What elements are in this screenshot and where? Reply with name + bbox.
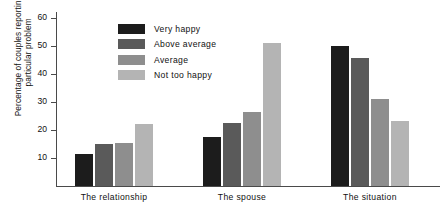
y-tick-label: 30 [21, 96, 47, 106]
y-tick-label: 60 [21, 12, 47, 22]
plot-area: 102030405060 Very happyAbove averageAver… [56, 12, 440, 186]
bar-the-spouse-very-happy [203, 137, 221, 186]
y-tick-label: 20 [21, 124, 47, 134]
bar-the-spouse-not-too-happy [263, 43, 281, 186]
x-axis-label-1: The spouse [218, 192, 266, 202]
x-axis-label-2: The situation [343, 192, 397, 202]
bars-layer [56, 12, 440, 186]
x-axis-line [56, 186, 440, 187]
y-tick-label: 40 [21, 68, 47, 78]
bar-the-relationship-average [115, 143, 133, 187]
bar-the-situation-average [371, 99, 389, 186]
bar-the-situation-not-too-happy [391, 121, 409, 186]
bar-the-situation-very-happy [331, 46, 349, 186]
x-axis-label-0: The relationship [81, 192, 148, 202]
y-tick-label: 10 [21, 152, 47, 162]
bar-the-relationship-above-average [95, 144, 113, 186]
y-tick-label: 50 [21, 40, 47, 50]
bar-the-situation-above-average [351, 58, 369, 186]
bar-the-spouse-above-average [223, 123, 241, 186]
bar-chart: Percentage of couples reporting a partic… [0, 0, 448, 221]
bar-the-relationship-very-happy [75, 154, 93, 186]
bar-the-relationship-not-too-happy [135, 124, 153, 186]
bar-the-spouse-average [243, 112, 261, 186]
x-axis-group-labels: The relationshipThe spouseThe situation [56, 192, 440, 212]
